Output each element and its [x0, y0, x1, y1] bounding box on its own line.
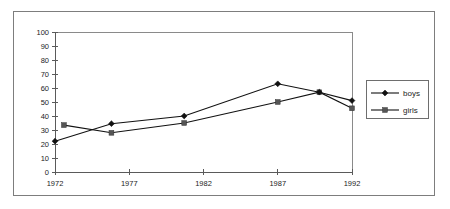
plot-area: 0102030405060708090100 19721977198219871…	[36, 28, 360, 188]
legend-label-boys: boys	[403, 89, 420, 98]
y-tick-label: 10	[41, 154, 49, 163]
square-marker-icon	[275, 100, 280, 105]
series-girls	[62, 90, 355, 135]
y-tick-label: 20	[41, 140, 49, 149]
square-marker-icon	[182, 121, 187, 126]
series-boys	[52, 81, 355, 144]
diamond-marker-icon	[181, 113, 187, 119]
square-marker-icon	[62, 123, 67, 128]
line-chart: 0102030405060708090100 19721977198219871…	[0, 0, 450, 209]
square-marker-icon	[350, 106, 355, 111]
diamond-marker-icon	[52, 138, 58, 144]
legend-box	[367, 81, 429, 119]
square-marker-icon	[109, 130, 114, 135]
y-tick-label: 0	[45, 168, 49, 177]
y-tick-label: 40	[41, 112, 49, 121]
series-line-girls	[64, 92, 352, 133]
x-tick-label: 1977	[121, 179, 138, 188]
y-tick-label: 70	[41, 70, 49, 79]
y-tick-label: 60	[41, 84, 49, 93]
x-axis-tick-labels: 19721977198219871992	[47, 179, 361, 188]
y-tick-label: 80	[41, 56, 49, 65]
y-tick-label: 50	[41, 98, 49, 107]
x-tick-label: 1972	[47, 179, 64, 188]
x-tick-label: 1987	[269, 179, 286, 188]
square-marker-icon	[383, 108, 388, 113]
y-tick-label: 100	[36, 28, 49, 37]
chart-screenshot: 0102030405060708090100 19721977198219871…	[0, 0, 450, 209]
plot-area-border	[55, 32, 352, 172]
legend-label-girls: girls	[403, 106, 418, 115]
y-tick-label: 90	[41, 42, 49, 51]
series-line-boys	[55, 84, 352, 141]
x-tick-label: 1982	[195, 179, 212, 188]
diamond-marker-icon	[109, 121, 115, 127]
legend: boysgirls	[367, 81, 429, 119]
x-tick-label: 1992	[344, 179, 361, 188]
y-tick-label: 30	[41, 126, 49, 135]
diamond-marker-icon	[349, 98, 355, 104]
y-axis-tick-labels: 0102030405060708090100	[36, 28, 49, 177]
diamond-marker-icon	[275, 81, 281, 87]
